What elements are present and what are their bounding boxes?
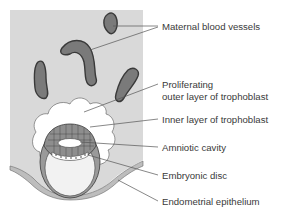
label-proliferating-line2: outer layer of trophoblast: [162, 91, 268, 102]
amniotic-cavity: [58, 139, 82, 148]
label-endometrial-epithelium: Endometrial epithelium: [162, 196, 260, 207]
label-proliferating-line1: Proliferating: [162, 79, 213, 90]
vessel-top: [104, 13, 117, 34]
implantation-diagram: Maternal blood vessels Proliferating out…: [0, 0, 287, 212]
label-embryonic-disc: Embryonic disc: [162, 170, 227, 181]
label-amniotic-cavity: Amniotic cavity: [162, 142, 226, 153]
label-maternal-blood-vessels: Maternal blood vessels: [162, 21, 260, 32]
label-inner-layer-trophoblast: Inner layer of trophoblast: [162, 114, 268, 125]
labels: Maternal blood vessels Proliferating out…: [162, 21, 268, 207]
